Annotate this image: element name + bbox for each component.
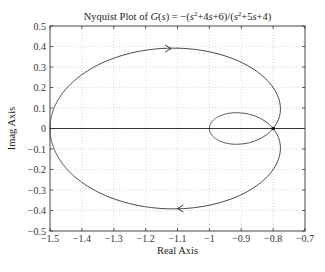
y-tick-label: 0.2: [34, 82, 47, 93]
x-axis-label: Real Axis: [157, 245, 198, 256]
curve-positive-freq: [50, 48, 280, 144]
x-tick-label: −1.3: [105, 233, 123, 244]
curve-negative-freq: [50, 113, 280, 209]
x-tick-label: −0.8: [264, 233, 282, 244]
y-tick-label: 0.4: [34, 41, 47, 52]
x-tick-label: −1: [204, 233, 215, 244]
y-tick-label: −0.4: [28, 205, 46, 216]
y-tick-label: −0.1: [28, 144, 46, 155]
y-tick-label: 0: [41, 123, 46, 134]
chart-title: Nyquist Plot of G(s) = −(s2+4s+6)/(s2+5s…: [84, 10, 272, 23]
y-tick-label: 0.1: [34, 103, 47, 114]
x-tick-label: −1.1: [168, 233, 186, 244]
x-tick-label: −0.9: [232, 233, 250, 244]
y-tick-label: −0.2: [28, 164, 46, 175]
y-tick-label: 0.5: [34, 21, 47, 32]
y-tick-label: −0.5: [28, 226, 46, 237]
x-tick-label: −1.4: [73, 233, 91, 244]
crossing-marker: [271, 127, 275, 131]
x-tick-labels: −1.5−1.4−1.3−1.2−1.1−1−0.9−0.8−0.7: [41, 233, 314, 244]
x-tick-label: −1.2: [137, 233, 155, 244]
y-axis-label: Imag Axis: [6, 107, 17, 150]
x-tick-label: −0.7: [296, 233, 314, 244]
y-tick-label: −0.3: [28, 185, 46, 196]
y-tick-labels: 0.50.40.30.20.10−0.1−0.2−0.3−0.4−0.5: [28, 21, 46, 237]
nyquist-chart: −1.5−1.4−1.3−1.2−1.1−1−0.9−0.8−0.7 0.50.…: [0, 0, 325, 272]
y-tick-label: 0.3: [34, 62, 47, 73]
